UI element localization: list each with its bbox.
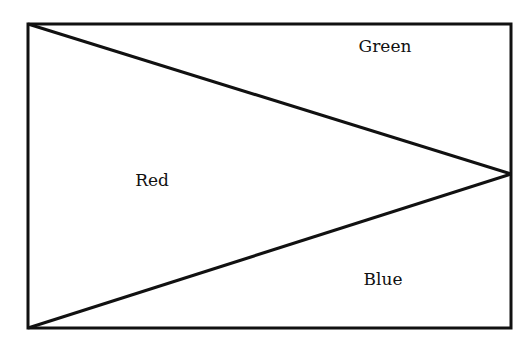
outer-rectangle bbox=[28, 24, 511, 328]
lower-diagonal bbox=[28, 174, 511, 328]
red-region-label: Red bbox=[135, 170, 169, 190]
upper-diagonal bbox=[28, 24, 511, 174]
flag-diagram: Green Red Blue bbox=[0, 0, 531, 350]
green-region-label: Green bbox=[359, 36, 412, 56]
blue-region-label: Blue bbox=[364, 269, 403, 289]
